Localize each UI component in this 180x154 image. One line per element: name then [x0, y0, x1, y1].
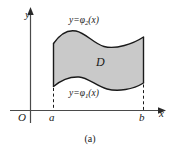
x-axis-label: x: [159, 108, 164, 119]
upper-curve-label-arg: (x): [88, 15, 99, 25]
upper-curve-label-prefix: y=φ: [69, 15, 85, 25]
lower-curve-label: y=φ1(x): [69, 89, 99, 100]
lower-curve-label-prefix: y=φ: [69, 88, 85, 98]
panel-caption: (a): [0, 133, 180, 144]
x-tick-label-b: b: [139, 112, 145, 123]
origin-label: O: [18, 112, 26, 123]
upper-curve-label: y=φ2(x): [69, 16, 99, 27]
x-tick-label-a: a: [49, 112, 55, 123]
region-d-label: D: [96, 56, 105, 68]
figure-panel: y x O a b D y=φ2(x) y=φ1(x) (a): [0, 0, 180, 154]
y-axis-label: y: [25, 9, 30, 20]
lower-curve-label-arg: (x): [88, 88, 99, 98]
